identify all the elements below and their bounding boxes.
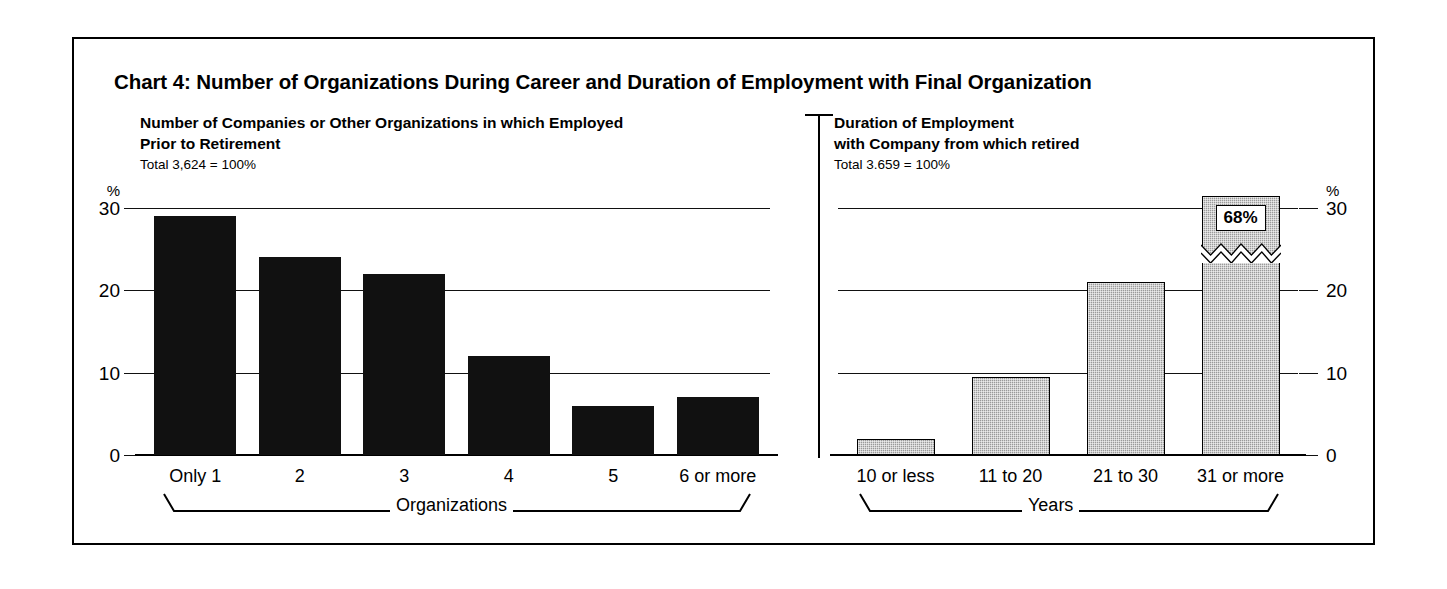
page-title: Chart 4: Number of Organizations During … bbox=[114, 70, 1092, 94]
left-axis-tick-20: 20 bbox=[76, 281, 120, 300]
bar bbox=[259, 257, 341, 455]
right-axis-tick-20: 20 bbox=[1326, 281, 1347, 300]
category-label: 11 to 20 bbox=[953, 465, 1068, 487]
category-label: 2 bbox=[248, 465, 353, 487]
left-heading-line-2: Prior to Retirement bbox=[140, 133, 623, 154]
bar-value-callout: 68% bbox=[1215, 205, 1265, 231]
category-label: Only 1 bbox=[143, 465, 248, 487]
right-axis-tick-0: 0 bbox=[1326, 446, 1337, 465]
right-tick-mark-30 bbox=[1299, 208, 1318, 209]
category-label: 5 bbox=[561, 465, 666, 487]
right-panel-header: Duration of Employment with Company from… bbox=[834, 112, 1079, 174]
left-axis-tick-10: 10 bbox=[76, 364, 120, 383]
bar bbox=[972, 377, 1050, 455]
right-tick-mark-20 bbox=[1299, 290, 1318, 291]
category-label: 6 or more bbox=[666, 465, 771, 487]
bar bbox=[1087, 282, 1165, 455]
left-gridline-10 bbox=[143, 373, 770, 374]
left-panel-header: Number of Companies or Other Organizatio… bbox=[140, 112, 623, 174]
right-heading-line-1: Duration of Employment bbox=[834, 112, 1079, 133]
left-gridline-30 bbox=[143, 208, 770, 209]
right-heading-line-2: with Company from which retired bbox=[834, 133, 1079, 154]
right-axis-tick-10: 10 bbox=[1326, 364, 1347, 383]
category-label: 31 or more bbox=[1183, 465, 1298, 487]
left-total-label: Total 3,624 = 100% bbox=[140, 156, 623, 174]
chart-page: Chart 4: Number of Organizations During … bbox=[0, 0, 1447, 589]
category-label: 21 to 30 bbox=[1068, 465, 1183, 487]
bar bbox=[363, 274, 445, 455]
bar bbox=[468, 356, 550, 455]
left-axis-tick-0: 0 bbox=[76, 446, 120, 465]
category-label: 10 or less bbox=[838, 465, 953, 487]
left-axis-tick-30: 30 bbox=[76, 199, 120, 218]
category-label: 4 bbox=[457, 465, 562, 487]
right-tick-mark-10 bbox=[1299, 373, 1318, 374]
left-tick-mark-30 bbox=[124, 208, 143, 209]
left-heading-line-1: Number of Companies or Other Organizatio… bbox=[140, 112, 623, 133]
left-bracket-label: Organizations bbox=[390, 495, 513, 515]
left-gridline-20 bbox=[143, 290, 770, 291]
right-axis-percent-symbol: % bbox=[1326, 183, 1339, 198]
bar bbox=[857, 439, 935, 455]
left-axis-percent-symbol: % bbox=[76, 183, 120, 198]
bar: 68% bbox=[1202, 196, 1280, 455]
left-tick-mark-20 bbox=[124, 290, 143, 291]
bar bbox=[677, 397, 759, 455]
panel-divider bbox=[818, 114, 820, 458]
bar bbox=[154, 216, 236, 455]
right-bracket-label: Years bbox=[1022, 495, 1079, 515]
category-label: 3 bbox=[352, 465, 457, 487]
bar bbox=[572, 406, 654, 455]
right-axis-tick-30: 30 bbox=[1326, 199, 1347, 218]
axis-break-zigzag bbox=[1201, 241, 1281, 263]
right-total-label: Total 3.659 = 100% bbox=[834, 156, 1079, 174]
left-tick-mark-10 bbox=[124, 373, 143, 374]
